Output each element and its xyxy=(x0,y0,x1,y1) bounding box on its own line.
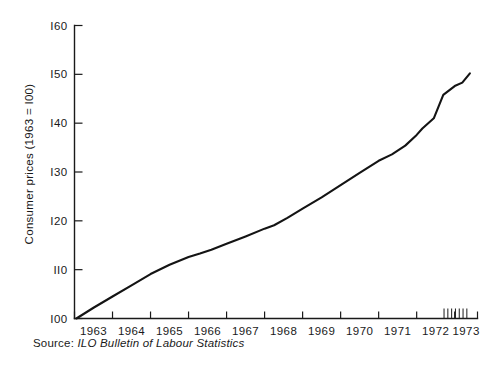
y-axis-tick-label: I50 xyxy=(50,68,67,80)
y-axis-tick-label: I30 xyxy=(50,166,67,178)
line-chart-svg: I00II0I20I30I40I50I601963196419651966196… xyxy=(0,0,496,368)
y-axis-tick-label: I00 xyxy=(50,313,67,325)
x-axis-tick-label: 1964 xyxy=(118,325,145,337)
x-axis-tick-label: 1969 xyxy=(308,325,335,337)
source-caption: Source: ILO Bulletin of Labour Statistic… xyxy=(33,337,245,349)
x-axis-tick-label: 1963 xyxy=(80,325,107,337)
x-axis-tick-label: 1966 xyxy=(194,325,221,337)
data-series-line xyxy=(76,73,470,318)
chart-figure: I00II0I20I30I40I50I601963196419651966196… xyxy=(0,0,496,368)
x-axis-tick-label: 1967 xyxy=(232,325,259,337)
y-axis-tick-label: I60 xyxy=(50,20,67,32)
x-axis-tick-label: 1973 xyxy=(453,325,480,337)
y-axis-tick-label: I20 xyxy=(50,215,67,227)
y-axis-tick-label: I40 xyxy=(50,117,67,129)
y-axis-tick-label: II0 xyxy=(54,264,68,276)
x-axis-tick-label: 1965 xyxy=(156,325,183,337)
x-axis-tick-label: 1972 xyxy=(422,325,449,337)
x-axis-tick-label: 1968 xyxy=(270,325,297,337)
x-axis-tick-label: 1971 xyxy=(384,325,411,337)
source-label: Source: xyxy=(33,337,74,349)
y-axis-title: Consumer prices (1963 = I00) xyxy=(23,84,35,245)
x-axis-tick-label: 1970 xyxy=(346,325,373,337)
source-title: ILO Bulletin of Labour Statistics xyxy=(77,337,244,349)
